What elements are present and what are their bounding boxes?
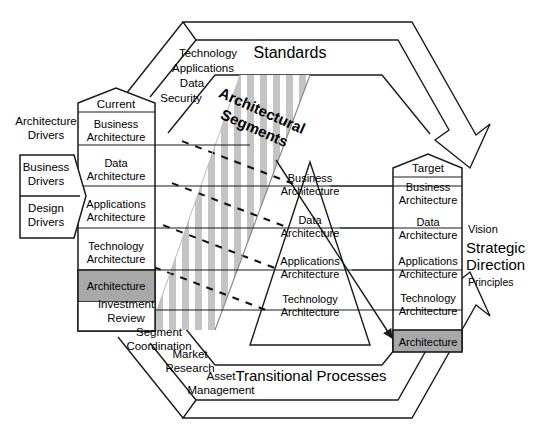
current-row-data-l2: Architecture bbox=[87, 170, 146, 182]
process-item-market-l1: Market bbox=[172, 348, 208, 360]
standards-item-data: Data bbox=[180, 77, 205, 89]
current-row-technology-l2: Architecture bbox=[87, 253, 146, 265]
standards-item-technology: Technology bbox=[179, 47, 237, 59]
drivers-heading-line2: Drivers bbox=[28, 129, 65, 141]
target-row-business-l1: Business bbox=[406, 181, 451, 193]
drivers-heading-line1: Architecture bbox=[15, 115, 76, 127]
process-item-investment-l2: Review bbox=[107, 312, 145, 324]
target-row-applications-l1: Applications bbox=[398, 255, 458, 267]
diagram-canvas: Standards Technology Applications Data S… bbox=[0, 0, 535, 440]
current-row-business-l2: Architecture bbox=[87, 131, 146, 143]
current-row-applications-l1: Applications bbox=[86, 198, 146, 210]
driver-design-line1: Design bbox=[28, 202, 64, 214]
standards-item-security: Security bbox=[160, 92, 202, 104]
middle-row-applications-l2: Architecture bbox=[281, 268, 340, 280]
driver-business-line2: Drivers bbox=[28, 175, 65, 187]
process-item-investment-l1: Investment bbox=[98, 298, 155, 310]
driver-design-line2: Drivers bbox=[28, 216, 65, 228]
middle-row-technology-l2: Architecture bbox=[281, 306, 340, 318]
middle-row-technology-l1: Technology bbox=[282, 293, 338, 305]
standards-title: Standards bbox=[254, 44, 327, 61]
driver-business-line1: Business bbox=[23, 161, 70, 173]
strategy-principles: Principles bbox=[468, 276, 514, 288]
current-row-business-l1: Business bbox=[94, 118, 139, 130]
middle-row-data-l1: Data bbox=[298, 214, 322, 226]
target-row-technology-l1: Technology bbox=[400, 292, 456, 304]
process-item-segment-l1: Segment bbox=[136, 326, 183, 338]
target-row-business-l2: Architecture bbox=[399, 194, 458, 206]
current-row-technology-l1: Technology bbox=[88, 240, 144, 252]
current-header: Current bbox=[97, 98, 136, 110]
strategy-vision: Vision bbox=[468, 223, 498, 235]
target-row-applications-l2: Architecture bbox=[399, 268, 458, 280]
current-row-applications-l2: Architecture bbox=[87, 211, 146, 223]
transitional-title: Transitional Processes bbox=[235, 367, 386, 384]
target-footer-architecture: Architecture bbox=[399, 336, 458, 348]
target-header: Target bbox=[412, 162, 445, 174]
process-item-asset-l2: Management bbox=[187, 384, 255, 396]
strategy-direction-line2: Direction bbox=[466, 256, 525, 273]
middle-row-applications-l1: Applications bbox=[280, 255, 340, 267]
current-row-data-l1: Data bbox=[104, 157, 128, 169]
middle-row-data-l2: Architecture bbox=[281, 227, 340, 239]
target-row-data-l1: Data bbox=[416, 216, 440, 228]
current-footer-architecture: Architecture bbox=[87, 280, 146, 292]
architecture-framework-diagram: Standards Technology Applications Data S… bbox=[0, 0, 535, 440]
target-row-data-l2: Architecture bbox=[399, 229, 458, 241]
target-row-technology-l2: Architecture bbox=[399, 305, 458, 317]
middle-row-business-l1: Business bbox=[288, 172, 333, 184]
process-item-asset-l1: Asset bbox=[207, 370, 237, 382]
strategy-direction-line1: Strategic bbox=[466, 239, 526, 256]
middle-row-business-l2: Architecture bbox=[281, 185, 340, 197]
standards-item-applications: Applications bbox=[172, 62, 234, 74]
